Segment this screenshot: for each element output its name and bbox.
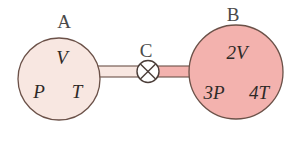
- vessel-b-label: B: [227, 4, 240, 25]
- diagram-canvas: A B C V P T 2V 3P 4T: [0, 0, 303, 141]
- vessel-b-group: [189, 25, 283, 119]
- vessel-b-circle: [189, 25, 283, 119]
- vessel-b-pressure: 3P: [202, 82, 225, 103]
- gas-vessels-diagram: A B C V P T 2V 3P 4T: [0, 0, 303, 141]
- valve-c-group: [137, 61, 159, 83]
- vessel-b-volume: 2V: [226, 42, 250, 63]
- vessel-a-pressure: P: [32, 81, 45, 102]
- valve-c-label: C: [140, 40, 153, 61]
- vessel-b-temperature: 4T: [249, 82, 271, 103]
- vessel-a-label: A: [57, 11, 71, 32]
- vessel-a-temperature: T: [72, 81, 84, 102]
